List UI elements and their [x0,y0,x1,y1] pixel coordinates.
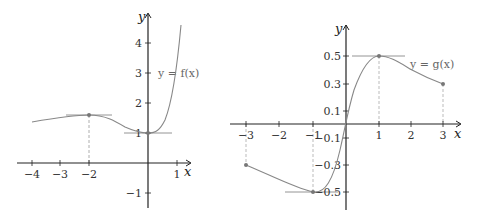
right-y-tick-label: 0.3 [324,78,342,91]
left-y-tick-label: 1 [135,127,142,140]
right-x-axis-label: x [454,126,462,141]
left-x-tick-label: −2 [81,168,97,181]
right-x-tick-label: 3 [440,129,447,142]
left-y-tick-label: −1 [126,187,142,200]
right-function-label: y = g(x) [409,58,454,71]
right-y-axis-label: y [334,21,343,36]
left-point-max [87,113,91,117]
right-x-tick-label: −3 [238,129,254,142]
left-y-tick-label: 4 [135,37,142,50]
right-y-tick-label: 0.5 [324,50,342,63]
right-point-start [244,163,248,167]
right-y-tick-label: −0.1 [314,132,341,145]
right-chart: −3 −2 −1 1 2 3 0.5 0.3 0.1 −0.1 −0.3 −0.… [230,21,462,210]
right-x-tick-label: −2 [271,129,287,142]
right-point-end [441,82,445,86]
left-y-axis-label: y [137,9,146,24]
right-point-min [311,190,315,194]
left-y-tick-label: 3 [135,67,142,80]
right-x-tick-label: 2 [408,129,415,142]
right-y-tick-label: −0.5 [314,186,341,199]
left-x-tick-label: −4 [24,168,40,181]
left-y-tick-label: 2 [135,97,142,110]
left-point-min [146,131,150,135]
left-x-tick-label: −3 [52,168,68,181]
figure: −4 −3 −2 1 4 3 2 1 −1 x y y = f(x) [0,0,478,220]
left-x-axis-label: x [184,164,192,179]
right-x-tick-label: 1 [376,129,383,142]
left-function-label: y = f(x) [157,67,199,80]
left-chart: −4 −3 −2 1 4 3 2 1 −1 x y y = f(x) [17,9,199,208]
right-point-max [377,54,381,58]
left-x-tick-label: 1 [174,168,181,181]
right-y-tick-label: 0.1 [324,105,342,118]
